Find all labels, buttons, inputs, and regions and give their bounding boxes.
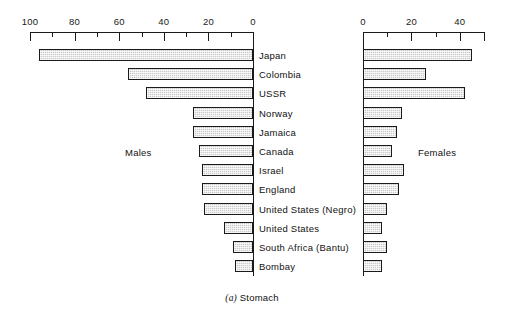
males-tick-major	[75, 32, 76, 41]
bar-females	[363, 164, 404, 176]
figure-caption: (a) Stomach	[225, 292, 278, 304]
males-tick-label: 100	[22, 17, 38, 27]
category-label: Japan	[259, 50, 286, 61]
females-axis-line	[363, 32, 484, 33]
category-label: Jamaica	[259, 127, 296, 138]
category-label: United States (Negro)	[259, 204, 356, 215]
bar-males	[128, 68, 253, 80]
bar-females	[363, 203, 387, 215]
females-tick-major	[460, 32, 461, 41]
caption-index: (a)	[225, 293, 237, 303]
bar-females	[363, 222, 382, 234]
bar-males	[199, 145, 253, 157]
males-tick-minor	[142, 32, 143, 37]
panel-title-males: Males	[125, 147, 152, 158]
males-tick-minor	[97, 32, 98, 37]
bar-males	[233, 241, 253, 253]
caption-text: Stomach	[240, 292, 279, 303]
category-label: England	[259, 184, 296, 195]
bar-females	[363, 107, 402, 119]
males-tick-minor	[52, 32, 53, 37]
bar-females	[363, 49, 472, 61]
females-axis-endcap	[484, 32, 485, 41]
bar-males	[146, 87, 253, 99]
bar-females	[363, 145, 392, 157]
females-tick-label: 40	[454, 17, 465, 27]
females-tick-minor	[436, 32, 437, 37]
bar-females	[363, 260, 382, 272]
bar-males	[235, 260, 253, 272]
males-tick-label: 60	[114, 17, 125, 27]
bar-females	[363, 183, 399, 195]
category-label: South Africa (Bantu)	[259, 242, 349, 253]
females-tick-label: 20	[406, 17, 417, 27]
bar-males	[39, 49, 253, 61]
category-label: Colombia	[259, 69, 301, 80]
category-label: Bombay	[259, 261, 295, 272]
bar-males	[193, 107, 253, 119]
males-tick-minor	[231, 32, 232, 37]
panel-title-females: Females	[418, 147, 456, 158]
category-label: USSR	[259, 88, 286, 99]
males-tick-label: 80	[69, 17, 80, 27]
males-tick-label: 40	[158, 17, 169, 27]
males-tick-minor	[186, 32, 187, 37]
bar-females	[363, 241, 387, 253]
males-baseline	[253, 32, 254, 276]
females-tick-label: 0	[360, 17, 365, 27]
bar-males	[224, 222, 253, 234]
males-tick-major	[119, 32, 120, 41]
bar-males	[204, 203, 253, 215]
males-tick-major	[208, 32, 209, 41]
category-label: Israel	[259, 165, 284, 176]
females-tick-major	[411, 32, 412, 41]
males-axis-endcap	[30, 32, 31, 41]
bar-males	[193, 126, 253, 138]
females-tick-major	[363, 32, 364, 41]
bar-females	[363, 87, 465, 99]
males-tick-label: 20	[203, 17, 214, 27]
males-tick-major	[253, 32, 254, 41]
bar-females	[363, 126, 397, 138]
males-tick-label: 0	[250, 17, 255, 27]
category-label: Canada	[259, 146, 294, 157]
females-tick-minor	[387, 32, 388, 37]
bar-males	[202, 164, 253, 176]
figure-stomach-cancer-rates: 100806040200 02040 JapanColombiaUSSRNorw…	[0, 0, 507, 317]
bar-females	[363, 68, 426, 80]
category-label: Norway	[259, 108, 293, 119]
bar-males	[202, 183, 253, 195]
category-label: United States	[259, 223, 319, 234]
males-tick-major	[164, 32, 165, 41]
